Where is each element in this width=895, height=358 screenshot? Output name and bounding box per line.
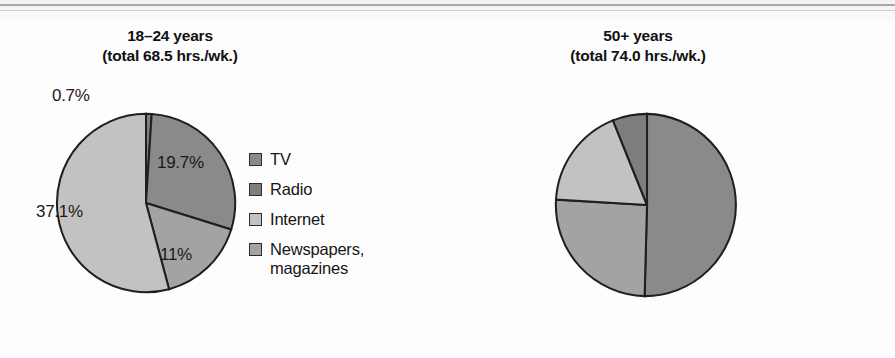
- legend-item-newspapers: Newspapers, magazines: [249, 240, 364, 278]
- legend-swatch-newspapers-icon: [249, 243, 262, 256]
- chart-title-line2: (total 74.0 hrs./wk.): [452, 46, 824, 66]
- slice-label-radio: 0.7%: [52, 86, 90, 106]
- legend-swatch-tv-icon: [249, 153, 262, 166]
- pie-svg-50-plus: [554, 112, 740, 298]
- slice-label-internet: 37.1%: [36, 202, 83, 222]
- legend-label-newspapers: Newspapers, magazines: [270, 240, 364, 278]
- chart-title-50-plus: 50+ years (total 74.0 hrs./wk.): [452, 26, 824, 66]
- chart-title-line1: 50+ years: [603, 27, 672, 44]
- legend-18-24: TV Radio Internet Newspapers, magazines: [249, 150, 364, 289]
- chart-title-line1: 18–24 years: [127, 27, 213, 44]
- legend-label-radio: Radio: [270, 180, 312, 199]
- legend-item-tv: TV: [249, 150, 364, 169]
- pie-slice-tv: [645, 114, 736, 296]
- legend-item-radio: Radio: [249, 180, 364, 199]
- slice-label-newspapers: 11%: [160, 245, 192, 265]
- chart-title-line2: (total 68.5 hrs./wk.): [0, 46, 340, 66]
- legend-label-internet: Internet: [270, 210, 324, 229]
- pie-slice-newspapers: [556, 200, 647, 297]
- legend-item-internet: Internet: [249, 210, 364, 229]
- slice-label-tv: 19.7%: [157, 153, 204, 173]
- legend-swatch-internet-icon: [249, 213, 262, 226]
- legend-swatch-radio-icon: [249, 183, 262, 196]
- chart-title-18-24: 18–24 years (total 68.5 hrs./wk.): [0, 26, 340, 66]
- pie-graphic-50-plus: [554, 112, 740, 298]
- pie-chart-50-plus: 50+ years (total 74.0 hrs./wk.) 4.5% 36.…: [448, 0, 895, 358]
- pie-chart-18-24: 18–24 years (total 68.5 hrs./wk.) 0.7% 1…: [0, 0, 447, 358]
- legend-label-tv: TV: [270, 150, 291, 169]
